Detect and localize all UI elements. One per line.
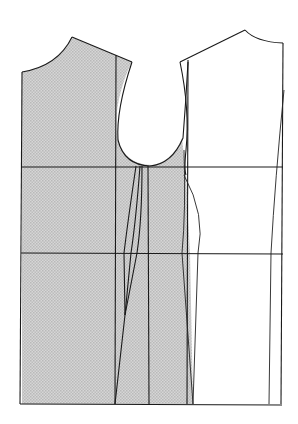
back-bodice-fill: [22, 37, 193, 404]
hem-line: [20, 404, 282, 405]
front-right-edge: [281, 43, 283, 404]
pattern-diagram: [0, 0, 298, 424]
pattern-svg: [0, 0, 298, 424]
front-neckline: [245, 30, 283, 43]
front-shoulder: [180, 30, 245, 62]
back-left-edge: [20, 72, 22, 404]
